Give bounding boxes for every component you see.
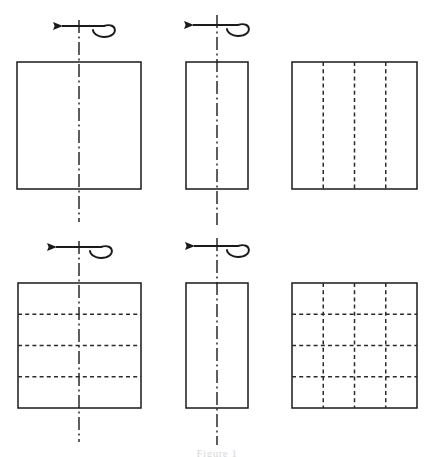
panel-bottom-middle: [186, 238, 249, 445]
rotation-arrow-icon: [56, 246, 112, 258]
panel-bottom-left: [18, 241, 141, 442]
figure-canvas: [0, 0, 434, 457]
panel-rectangle: [292, 283, 417, 408]
panel-top-right: [292, 62, 417, 189]
panel-rectangle: [186, 283, 248, 408]
vertical-dashed-divisions: [323, 283, 386, 408]
figure-diagram: Figure 1: [0, 0, 434, 457]
rotation-arrow-icon: [193, 24, 249, 36]
rotation-arrow-icon: [194, 245, 249, 257]
panel-bottom-right: [292, 283, 417, 408]
panel-top-middle: [186, 15, 249, 225]
horizontal-dashed-divisions: [292, 314, 417, 377]
figure-caption: Figure 1: [0, 448, 434, 457]
panel-rectangle: [292, 62, 417, 189]
vertical-dashed-divisions: [323, 62, 386, 189]
rotation-arrow-icon: [62, 25, 115, 37]
panel-top-left: [17, 20, 141, 222]
